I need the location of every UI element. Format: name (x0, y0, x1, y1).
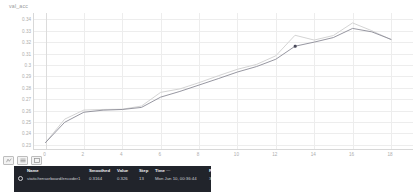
series-lines (34, 13, 414, 150)
y-axis-tick-label: 0.23 (1, 142, 31, 147)
y-axis-tick-label: 0.27 (1, 97, 31, 102)
sort-indicator-icon: — (166, 169, 170, 174)
fit-domain-icon[interactable] (3, 156, 14, 165)
smoothed-value: 0.3164 (88, 176, 116, 183)
y-axis-tick-label: 0.34 (1, 17, 31, 22)
chart-toolbar[interactable] (3, 156, 42, 165)
chart-tooltip: Name Smoothed Value Step Time— Relative … (14, 166, 211, 192)
x-axis-tick-label: 12 (272, 152, 277, 157)
tooltip-header-row: Name Smoothed Value Step Time— Relative (17, 168, 211, 176)
x-axis-tick-labels: 024681012141618 (33, 152, 413, 161)
y-axis-tick-label: 0.24 (1, 131, 31, 136)
x-axis-tick-label: 4 (120, 152, 123, 157)
run-name: static/tensorboard/encoder1 (26, 176, 88, 183)
x-axis-tick-label: 16 (349, 152, 354, 157)
tooltip-header-name[interactable]: Name (26, 168, 88, 176)
tooltip-header-time[interactable]: Time— (154, 168, 208, 176)
page-title: val_acc (9, 3, 28, 9)
time: Mon Jun 10, 00:36:44 (154, 176, 208, 183)
y-axis-tick-label: 0.26 (1, 108, 31, 113)
tooltip-header-step[interactable]: Step (138, 168, 154, 176)
tooltip-header-swatch (17, 168, 26, 176)
x-axis-tick-label: 8 (197, 152, 200, 157)
series-line (46, 28, 391, 142)
y-axis-tick-label: 0.32 (1, 40, 31, 45)
table-row[interactable]: static/tensorboard/encoder10.31640.32613… (17, 176, 211, 183)
expand-icon[interactable] (31, 156, 42, 165)
tooltip-header-value[interactable]: Value (116, 168, 138, 176)
x-axis-tick-label: 2 (82, 152, 85, 157)
tooltip-table: Name Smoothed Value Step Time— Relative … (17, 168, 211, 183)
hover-point-marker (294, 45, 297, 48)
y-axis-tick-label: 0.25 (1, 120, 31, 125)
y-axis-tick-label: 0.31 (1, 51, 31, 56)
tooltip-header-relative[interactable]: Relative (208, 168, 211, 176)
step: 13 (138, 176, 154, 183)
tooltip-body: static/tensorboard/encoder10.31640.32613… (17, 176, 211, 183)
y-axis-tick-labels: 0.230.240.250.260.270.280.290.30.310.320… (0, 13, 31, 150)
x-axis-tick-label: 14 (311, 152, 316, 157)
series-line (46, 23, 391, 143)
y-axis-tick-label: 0.33 (1, 28, 31, 33)
x-axis-tick-label: 0 (43, 152, 46, 157)
y-axis-tick-label: 0.28 (1, 85, 31, 90)
value: 0.326 (116, 176, 138, 183)
x-axis-tick-label: 6 (158, 152, 161, 157)
y-axis-tick-label: 0.29 (1, 74, 31, 79)
y-axis-tick-label: 0.3 (1, 62, 31, 67)
plot-area[interactable] (33, 13, 413, 150)
series-color-swatch (17, 176, 26, 183)
tooltip-header-time-label: Time (155, 168, 165, 173)
list-icon[interactable] (17, 156, 28, 165)
circle-icon (18, 176, 23, 181)
x-axis-tick-label: 18 (387, 152, 392, 157)
tooltip-header-smoothed[interactable]: Smoothed (88, 168, 116, 176)
relative-time: 34s (208, 176, 211, 183)
x-axis-tick-label: 10 (234, 152, 239, 157)
chart-panel: val_acc 0.230.240.250.260.270.280.290.30… (0, 0, 418, 195)
